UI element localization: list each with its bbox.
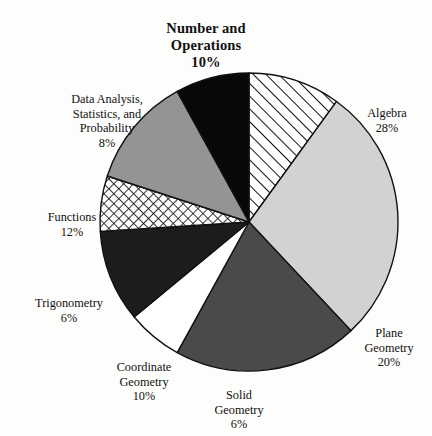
slice-label-algebra-name: Algebra: [367, 106, 407, 120]
slice-label-trigonometry-pct: 6%: [14, 311, 124, 325]
slice-label-algebra-pct: 28%: [346, 121, 428, 135]
slice-label-plane-geometry: Plane Geometry 20%: [348, 312, 430, 384]
slice-label-solid-geometry-pct: 6%: [196, 417, 282, 431]
slice-label-solid-geometry: Solid Geometry 6%: [196, 374, 282, 436]
slice-label-solid-geometry-name: Solid Geometry: [214, 388, 263, 416]
chart-title-line-2: Operations: [128, 37, 284, 54]
slice-label-plane-geometry-pct: 20%: [348, 355, 430, 369]
pie-chart-page: Number and Operations 10% Algebra 28% Pl…: [0, 0, 432, 436]
slice-label-data-analysis-name: Data Analysis, Statistics, and Probabili…: [71, 92, 143, 135]
slice-label-plane-geometry-name: Plane Geometry: [364, 326, 413, 354]
slice-label-coordinate-geometry: Coordinate Geometry 10%: [92, 346, 196, 418]
slice-label-algebra: Algebra 28%: [346, 92, 428, 150]
slice-label-trigonometry: Trigonometry 6%: [14, 282, 124, 340]
slice-label-functions: Functions 12%: [20, 196, 124, 254]
slice-label-coordinate-geometry-pct: 10%: [92, 389, 196, 403]
slice-label-data-analysis: Data Analysis, Statistics, and Probabili…: [48, 78, 166, 164]
chart-title-line-1: Number and: [128, 20, 284, 37]
chart-title: Number and Operations 10%: [128, 20, 284, 71]
slice-label-functions-name: Functions: [48, 210, 97, 224]
slice-label-functions-pct: 12%: [20, 225, 124, 239]
slice-label-trigonometry-name: Trigonometry: [35, 296, 103, 310]
chart-title-line-3: 10%: [128, 54, 284, 71]
slice-label-coordinate-geometry-name: Coordinate Geometry: [117, 360, 172, 388]
slice-label-data-analysis-pct: 8%: [48, 136, 166, 150]
